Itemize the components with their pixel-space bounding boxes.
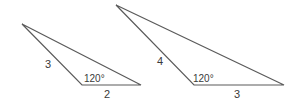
large-triangle-side-4-label: 4 [157,55,163,67]
large-triangle-side-3-label: 3 [234,88,240,100]
small-triangle-angle-label: 120° [84,73,105,84]
small-triangle-side-2-label: 2 [104,88,110,100]
small-triangle-outline [22,24,141,85]
large-triangle-angle-label: 120° [193,73,214,84]
small-triangle-side-3-label: 3 [45,58,51,70]
small-triangle: 3 2 120° [22,24,141,100]
large-triangle: 4 3 120° [116,5,284,100]
similar-triangles-diagram: 3 2 120° 4 3 120° [0,0,303,103]
